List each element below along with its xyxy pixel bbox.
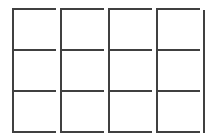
grid-row-divider	[12, 49, 56, 51]
grid-row-divider	[12, 90, 56, 92]
grid-row-divider	[156, 131, 200, 133]
grid-row-divider	[108, 49, 152, 51]
grid-row-divider	[156, 49, 200, 51]
grid-row-divider	[60, 49, 104, 51]
grid-row-divider	[156, 90, 200, 92]
grid-row-divider	[156, 8, 200, 10]
grid-row-divider	[108, 8, 152, 10]
grid-row-divider	[60, 8, 104, 10]
empty-grid-diagram	[0, 0, 215, 140]
grid-row-divider	[12, 8, 56, 10]
grid-column-divider	[12, 8, 14, 133]
grid-column-divider	[156, 8, 158, 133]
grid-row-divider	[108, 131, 152, 133]
grid-row-divider	[60, 90, 104, 92]
grid-right-border	[203, 10, 205, 133]
grid-row-divider	[108, 90, 152, 92]
grid-column-divider	[108, 8, 110, 133]
grid-row-divider	[60, 131, 104, 133]
grid-column-divider	[60, 8, 62, 133]
grid-row-divider	[12, 131, 56, 133]
